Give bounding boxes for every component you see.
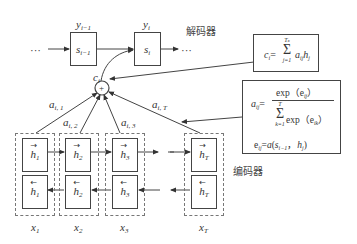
attention-weight-formula: aij= exp（eij） T Σ k=1 exp（eik） eij=a(si−…	[242, 80, 341, 154]
decoder-state-prev-label: si−1	[76, 44, 90, 57]
context-formula-terms: aijhj	[295, 49, 310, 61]
input-x3: x3	[120, 222, 128, 235]
forward-hidden-3: →h3	[112, 138, 138, 172]
context-formula-sum: Tx Σ j=1	[281, 37, 293, 63]
attention-formula-lhs: aij=	[251, 98, 265, 110]
decoder-state-current-label: si	[144, 44, 150, 57]
backward-hidden-1: ←h1	[22, 175, 48, 209]
attention-formula-numerator: exp（eij）	[276, 85, 317, 99]
attention-formula-denominator: exp（eik）	[286, 112, 328, 126]
output-label-prev: yi−1	[76, 19, 91, 32]
backward-hidden-2: ←h2	[65, 175, 91, 209]
decoder-ellipsis-right: ···	[181, 45, 192, 56]
context-plus-symbol: +	[99, 84, 104, 93]
backward-hidden-3: ←h3	[112, 175, 138, 209]
attention-weight-T: ai, T	[152, 99, 167, 112]
attention-weight-1: ai, 1	[49, 99, 63, 112]
decoder-label: 解码器	[186, 27, 216, 37]
decoder-ellipsis-left: ···	[30, 45, 41, 56]
output-label-current: yi	[143, 19, 150, 32]
encoder-label: 编码器	[233, 167, 263, 177]
attention-formula-sum: T Σ k=1	[275, 101, 285, 127]
backward-hidden-T: ←hT	[191, 175, 217, 209]
energy-formula: eij=a(si−1，hj)	[254, 137, 307, 151]
forward-hidden-T: →hT	[191, 138, 217, 172]
context-label: ci	[93, 72, 100, 85]
attention-weight-2: ai, 2	[63, 117, 77, 130]
forward-hidden-1: →h1	[22, 138, 48, 172]
input-x1: x1	[31, 222, 39, 235]
forward-hidden-2: →h2	[65, 138, 91, 172]
attention-weight-3: ai, 3	[121, 117, 135, 130]
context-formula-lhs: ci=	[264, 49, 276, 61]
decoder-state-current: si	[134, 32, 161, 66]
input-x2: x2	[74, 222, 82, 235]
input-xT: xT	[199, 222, 208, 235]
context-vector-formula: ci= Tx Σ j=1 aijhj	[253, 34, 319, 72]
decoder-state-prev: si−1	[70, 32, 97, 66]
